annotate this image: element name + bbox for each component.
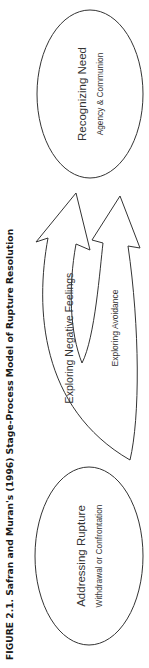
arrow-label-avoidance: Exploring Avoidance xyxy=(110,289,120,366)
node-recognizing-need: Recognizing Need Agency & Communion xyxy=(37,10,143,178)
figure-diagram: FIGURE 2.1. Safran and Muran's (1996) St… xyxy=(0,0,149,668)
figure-title: FIGURE 2.1. Safran and Muran's (1996) St… xyxy=(4,229,15,660)
node-label: Recognizing Need xyxy=(76,47,88,141)
arrow-exploring-negative-feelings: Exploring Negative Feelings Exploring Av… xyxy=(36,193,140,460)
arrow-shape xyxy=(36,193,140,460)
ellipse-shape xyxy=(37,10,143,178)
node-label: Addressing Rupture xyxy=(75,505,87,607)
ellipse-shape xyxy=(35,467,143,645)
node-addressing-rupture: Addressing Rupture Withdrawal or Confron… xyxy=(35,467,143,645)
node-sublabel: Agency & Communion xyxy=(95,52,105,135)
arrow-label: Exploring Negative Feelings xyxy=(63,273,75,404)
node-sublabel: Withdrawal or Confrontation xyxy=(94,504,104,607)
